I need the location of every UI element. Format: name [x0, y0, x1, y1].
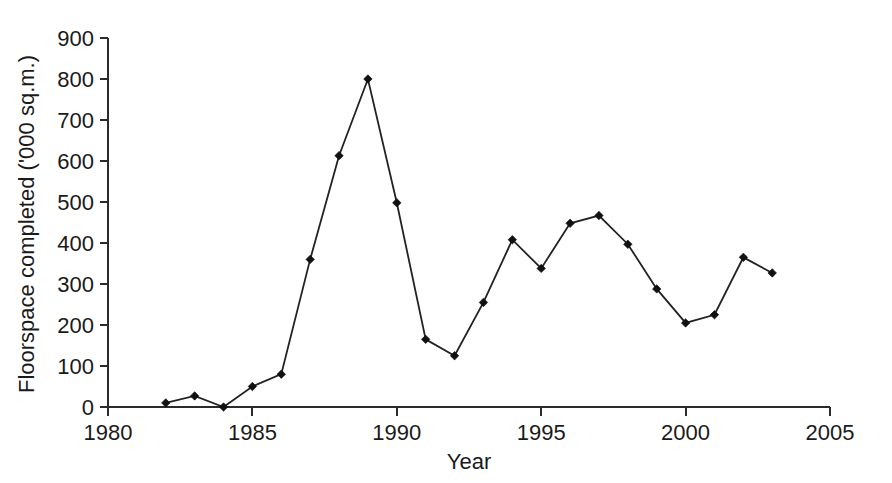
y-tick-label: 500 — [57, 190, 94, 215]
data-point-marker — [393, 199, 401, 207]
data-point-marker — [306, 255, 314, 263]
y-axis-title: Floorspace completed ('000 sq.m.) — [14, 55, 39, 393]
data-point-marker — [364, 75, 372, 83]
data-series — [162, 75, 777, 411]
y-tick-label: 800 — [57, 67, 94, 92]
x-tick-label: 1985 — [228, 420, 277, 445]
y-tick-label: 0 — [82, 395, 94, 420]
data-point-marker — [479, 298, 487, 306]
x-tick-label: 1995 — [517, 420, 566, 445]
y-tick-label: 300 — [57, 272, 94, 297]
line-chart: 0100200300400500600700800900 19801985199… — [0, 0, 892, 483]
y-tick-label: 700 — [57, 108, 94, 133]
x-tick-label: 2005 — [806, 420, 855, 445]
data-point-marker — [277, 370, 285, 378]
x-axis: 198019851990199520002005 — [84, 407, 855, 445]
x-tick-label: 2000 — [661, 420, 710, 445]
x-tick-label: 1980 — [84, 420, 133, 445]
data-point-marker — [450, 352, 458, 360]
y-axis: 0100200300400500600700800900 — [57, 26, 108, 420]
y-tick-label: 400 — [57, 231, 94, 256]
data-point-marker — [162, 399, 170, 407]
x-tick-label: 1990 — [372, 420, 421, 445]
data-point-marker — [335, 151, 343, 159]
y-tick-label: 100 — [57, 354, 94, 379]
data-point-marker — [768, 269, 776, 277]
data-point-marker — [710, 311, 718, 319]
data-point-marker — [421, 335, 429, 343]
y-tick-label: 200 — [57, 313, 94, 338]
y-tick-label: 600 — [57, 149, 94, 174]
chart-canvas: 0100200300400500600700800900 19801985199… — [0, 0, 892, 483]
data-point-marker — [190, 392, 198, 400]
series-line — [166, 79, 772, 407]
data-point-marker — [739, 253, 747, 261]
x-axis-title: Year — [447, 449, 491, 474]
y-tick-label: 900 — [57, 26, 94, 51]
